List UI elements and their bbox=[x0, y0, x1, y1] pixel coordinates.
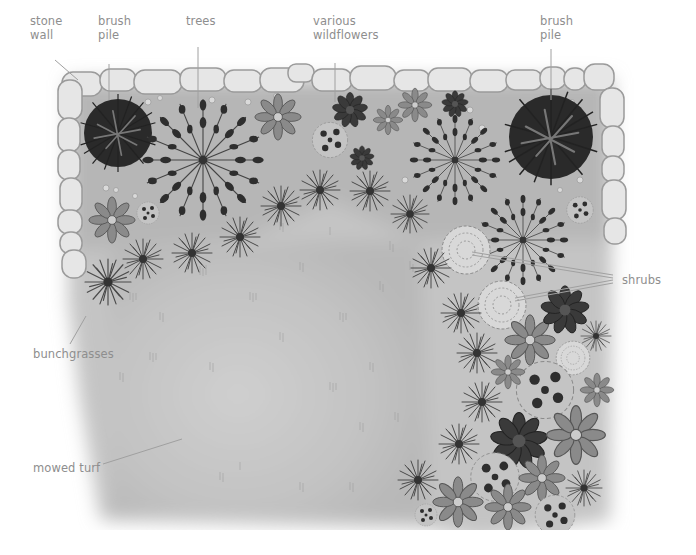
label-brush-pile-right: brush pile bbox=[540, 14, 573, 42]
label-bunchgrasses: bunchgrasses bbox=[33, 347, 114, 361]
habitat-diagram: stone wall brush pile trees various wild… bbox=[0, 0, 696, 555]
label-stone-wall: stone wall bbox=[30, 14, 62, 42]
label-trees: trees bbox=[186, 14, 216, 28]
label-various-wildflowers: various wildflowers bbox=[313, 14, 379, 42]
label-mowed-turf: mowed turf bbox=[33, 461, 100, 475]
label-shrubs: shrubs bbox=[622, 273, 661, 287]
habitat-illustration bbox=[0, 0, 696, 555]
label-brush-pile-left: brush pile bbox=[98, 14, 131, 42]
